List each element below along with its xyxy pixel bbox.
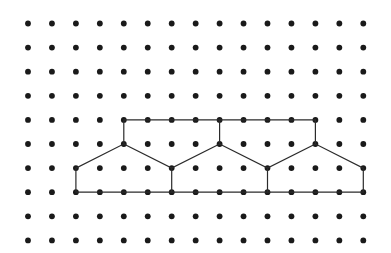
grid-dot <box>121 93 127 99</box>
grid-dot <box>265 45 271 51</box>
grid-dot <box>169 141 175 147</box>
grid-dot <box>193 141 199 147</box>
grid-dot <box>49 93 55 99</box>
grid-dot <box>73 45 79 51</box>
grid-dot <box>25 213 31 219</box>
grid-dot <box>49 141 55 147</box>
grid-dot <box>145 45 151 51</box>
grid-dot <box>121 165 127 171</box>
grid-dot <box>145 93 151 99</box>
grid-dot <box>169 21 175 27</box>
grid-dot <box>289 21 295 27</box>
grid-dot <box>145 69 151 75</box>
grid-dot <box>217 93 223 99</box>
grid-dot <box>265 213 271 219</box>
grid-dot <box>241 21 247 27</box>
grid-dot <box>169 238 175 244</box>
grid-dot <box>336 93 342 99</box>
grid-dot <box>360 141 366 147</box>
grid-dot <box>313 93 319 99</box>
grid-dot <box>241 165 247 171</box>
grid-dot <box>313 165 319 171</box>
grid-dot <box>49 165 55 171</box>
grid-dot <box>121 238 127 244</box>
grid-dot <box>360 213 366 219</box>
grid-dot <box>289 165 295 171</box>
grid-dot <box>313 69 319 75</box>
grid-dot <box>121 69 127 75</box>
grid-dot <box>289 45 295 51</box>
grid-dot <box>336 213 342 219</box>
grid-dot <box>121 45 127 51</box>
grid-dot <box>360 21 366 27</box>
grid-dot <box>169 93 175 99</box>
grid-dot <box>145 238 151 244</box>
grid-dot <box>313 213 319 219</box>
grid-dot <box>336 45 342 51</box>
grid-dot <box>193 213 199 219</box>
grid-dot <box>265 238 271 244</box>
grid-dot <box>73 69 79 75</box>
grid-dot <box>97 165 103 171</box>
grid-dot <box>97 238 103 244</box>
grid-dot <box>145 141 151 147</box>
grid-dot <box>241 213 247 219</box>
grid-dot <box>241 141 247 147</box>
grid-dot <box>193 45 199 51</box>
grid-dot <box>169 69 175 75</box>
grid-dot <box>25 117 31 123</box>
grid-dot <box>73 93 79 99</box>
grid-dot <box>193 238 199 244</box>
figure-canvas <box>0 0 391 253</box>
grid-dot <box>97 69 103 75</box>
grid-dot <box>73 238 79 244</box>
grid-dot <box>49 117 55 123</box>
dot-grid-figure <box>0 0 391 253</box>
grid-dot <box>49 238 55 244</box>
grid-dot <box>289 238 295 244</box>
grid-dot <box>313 21 319 27</box>
grid-dot <box>217 45 223 51</box>
grid-dot <box>217 21 223 27</box>
grid-dot <box>360 117 366 123</box>
grid-dot <box>49 69 55 75</box>
grid-dot <box>145 21 151 27</box>
grid-dot <box>49 189 55 195</box>
grid-dot <box>360 69 366 75</box>
grid-dot <box>121 21 127 27</box>
grid-dot <box>265 93 271 99</box>
grid-dot <box>289 93 295 99</box>
grid-dot <box>193 165 199 171</box>
grid-dot <box>25 45 31 51</box>
grid-dot <box>217 238 223 244</box>
grid-dot <box>145 213 151 219</box>
grid-dot <box>145 165 151 171</box>
grid-dot <box>289 141 295 147</box>
grid-dot <box>97 21 103 27</box>
grid-dot <box>336 165 342 171</box>
grid-dot <box>49 213 55 219</box>
grid-dot <box>217 213 223 219</box>
grid-dot <box>336 117 342 123</box>
grid-dot <box>49 21 55 27</box>
grid-dot <box>241 238 247 244</box>
grid-dot <box>193 21 199 27</box>
grid-dot <box>241 93 247 99</box>
grid-dot <box>73 21 79 27</box>
grid-dot <box>313 45 319 51</box>
grid-dot <box>360 93 366 99</box>
grid-dot <box>360 45 366 51</box>
grid-dot <box>289 213 295 219</box>
grid-dot <box>97 93 103 99</box>
grid-dot <box>241 69 247 75</box>
grid-dot <box>25 69 31 75</box>
grid-dot <box>313 238 319 244</box>
grid-dot <box>73 141 79 147</box>
grid-dot <box>265 141 271 147</box>
grid-dot <box>336 238 342 244</box>
grid-dot <box>265 69 271 75</box>
grid-dot <box>49 45 55 51</box>
grid-dot <box>97 117 103 123</box>
grid-dot <box>265 21 271 27</box>
grid-dot <box>336 141 342 147</box>
